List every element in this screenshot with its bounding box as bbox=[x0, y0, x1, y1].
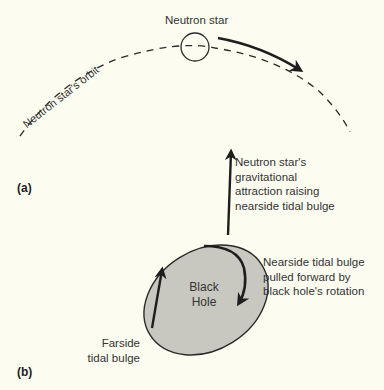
attraction-line: Neutron star's bbox=[235, 155, 335, 170]
neutron-star-label: Neutron star bbox=[165, 13, 228, 28]
black-hole-label-line: Black bbox=[181, 280, 227, 295]
orbit-direction-arrow-icon bbox=[218, 38, 300, 70]
nearside-line: black hole's rotation bbox=[263, 284, 365, 299]
attraction-line: attraction raising bbox=[235, 184, 335, 199]
panel-a-label: (a) bbox=[17, 181, 32, 195]
farside-line: tidal bulge bbox=[70, 351, 140, 366]
panel-b-label: (b) bbox=[17, 365, 32, 379]
farside-line: Farside bbox=[70, 336, 140, 351]
farside-text: Farside tidal bulge bbox=[70, 336, 140, 365]
black-hole-label: Black Hole bbox=[181, 280, 227, 310]
attraction-arrow-icon bbox=[228, 152, 231, 235]
attraction-line: nearside tidal bulge bbox=[235, 199, 335, 214]
neutron-star-icon bbox=[181, 33, 209, 61]
black-hole-label-line: Hole bbox=[181, 295, 227, 310]
attraction-text: Neutron star's gravitational attraction … bbox=[235, 155, 335, 213]
nearside-text: Nearside tidal bulge pulled forward by b… bbox=[263, 255, 365, 299]
attraction-line: gravitational bbox=[235, 170, 335, 185]
nearside-line: Nearside tidal bulge bbox=[263, 255, 365, 270]
nearside-line: pulled forward by bbox=[263, 270, 365, 285]
